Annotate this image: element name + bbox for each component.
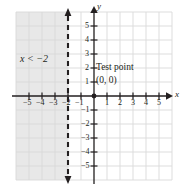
y-tick-label-pos4: 4 [85,36,89,44]
y-tick-label-pos5: 5 [85,22,89,30]
x-axis-label: x [175,90,179,99]
y-tick-label-pos2: 2 [85,64,89,72]
y-tick-label-neg4: −4 [81,148,90,156]
x-tick-label-pos2: 2 [118,99,122,107]
y-tick-label-pos3: 3 [85,50,89,58]
x-tick-label-neg4: −4 [36,99,45,107]
y-tick-label-neg1: −1 [81,106,90,114]
test-point-caption-title: Test point [96,63,134,73]
x-tick-label-neg2: −2 [62,99,71,107]
x-tick-label-neg5: −5 [23,99,32,107]
region-inequality-label: x < −2 [20,54,48,64]
inequality-graph-figure: x y −5 −4 −3 −2 −1 1 2 3 4 5 5 4 3 2 1 −… [0,0,183,194]
y-tick-label-neg3: −3 [81,134,90,142]
x-tick-label-pos3: 3 [131,99,135,107]
x-tick-label-pos5: 5 [157,99,161,107]
x-tick-label-neg3: −3 [49,99,58,107]
x-tick-label-pos4: 4 [144,99,148,107]
test-point-caption-coords: (0, 0) [96,76,117,86]
x-tick-label-pos1: 1 [105,99,109,107]
y-tick-label-neg5: −5 [81,162,90,170]
coordinate-plane-svg [0,0,183,194]
y-tick-label-pos1: 1 [85,78,89,86]
y-axis-label: y [97,2,101,11]
test-point-marker [92,94,97,99]
y-tick-label-neg2: −2 [81,120,90,128]
